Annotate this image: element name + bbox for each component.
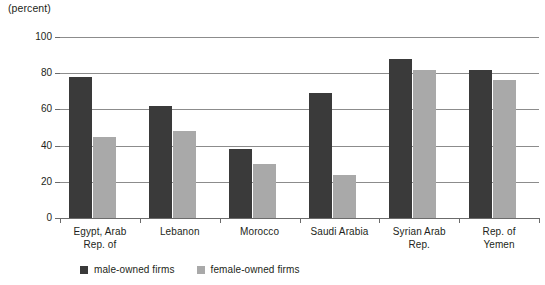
x-axis-label: Egypt, ArabRep. of (60, 226, 140, 251)
x-tick-mark (379, 218, 380, 223)
bar-female (413, 70, 436, 218)
bar-male (149, 106, 172, 218)
legend-swatch-male (80, 266, 88, 274)
bar-male (69, 77, 92, 218)
bar-male (469, 70, 492, 218)
legend-item-male: male-owned firms (80, 264, 175, 275)
bar-male (309, 93, 332, 218)
x-axis-label-line: Rep. of (60, 239, 140, 252)
x-axis-label: Saudi Arabia (300, 226, 380, 239)
x-axis-label-line: Yemen (459, 239, 539, 252)
x-axis-label: Lebanon (140, 226, 220, 239)
bar-female (253, 164, 276, 218)
chart-legend: male-owned firmsfemale-owned firms (80, 264, 300, 275)
x-tick-mark (539, 218, 540, 223)
bar-group (69, 37, 116, 218)
bar-group (309, 37, 356, 218)
x-axis-label-line: Rep. (379, 239, 459, 252)
y-tick-label-100: 100 (24, 32, 52, 42)
x-axis-label: Syrian ArabRep. (379, 226, 459, 251)
unit-title: (percent) (8, 2, 51, 14)
x-axis-label-line: Morocco (220, 226, 300, 239)
bar-group (229, 37, 276, 218)
x-tick-mark (140, 218, 141, 223)
bar-group (469, 37, 516, 218)
x-tick-mark (60, 218, 61, 223)
bar-female (93, 137, 116, 218)
y-tick-label-80: 80 (24, 68, 52, 78)
legend-swatch-female (197, 266, 205, 274)
legend-label-female: female-owned firms (211, 264, 300, 275)
y-tick-label-60: 60 (24, 104, 52, 114)
legend-label-male: male-owned firms (94, 264, 175, 275)
x-axis-label-line: Saudi Arabia (300, 226, 380, 239)
plot-area (60, 37, 539, 218)
legend-item-female: female-owned firms (197, 264, 300, 275)
x-axis-label-line: Syrian Arab (379, 226, 459, 239)
bar-group (389, 37, 436, 218)
bar-group (149, 37, 196, 218)
bar-female (493, 80, 516, 218)
x-axis-label-line: Lebanon (140, 226, 220, 239)
x-axis-label: Morocco (220, 226, 300, 239)
y-tick-label-20: 20 (24, 177, 52, 187)
x-tick-mark (220, 218, 221, 223)
bars-layer (60, 37, 539, 218)
bar-male (389, 59, 412, 218)
bar-female (173, 131, 196, 218)
y-tick-label-40: 40 (24, 141, 52, 151)
x-tick-mark (459, 218, 460, 223)
x-tick-mark (300, 218, 301, 223)
x-axis-label: Rep. ofYemen (459, 226, 539, 251)
x-axis-label-line: Egypt, Arab (60, 226, 140, 239)
bar-male (229, 149, 252, 218)
bar-female (333, 175, 356, 218)
y-tick-label-0: 0 (24, 213, 52, 223)
x-axis-label-line: Rep. of (459, 226, 539, 239)
